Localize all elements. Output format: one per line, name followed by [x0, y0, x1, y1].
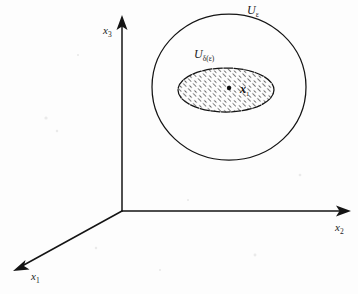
inner-region-label: Uδ(ε)	[194, 47, 215, 63]
center-point-dot	[227, 86, 231, 90]
x2-axis	[122, 206, 351, 217]
outer-region-label: Uε	[247, 3, 259, 19]
axis-system: x3 x2 x1	[13, 15, 351, 285]
inner-delta-neighborhood: Uδ(ε)	[178, 47, 274, 112]
x3-axis-label: x3	[102, 24, 112, 39]
x1-arrow-head	[13, 260, 30, 271]
x1-axis	[13, 211, 122, 271]
figure-canvas: x3 x2 x1 Uε Uδ(ε)	[0, 0, 358, 294]
x2-axis-label: x2	[334, 221, 344, 236]
x1-axis-label: x1	[30, 270, 40, 285]
x3-axis	[117, 15, 128, 211]
diagram-svg: x3 x2 x1 Uε Uδ(ε)	[0, 0, 358, 294]
